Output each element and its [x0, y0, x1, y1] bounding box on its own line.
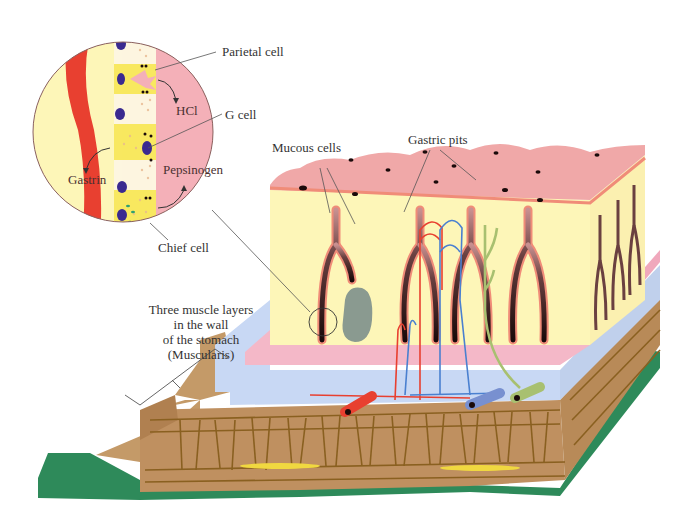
label-gastric-pits: Gastric pits — [408, 132, 468, 147]
lymph-nodule — [343, 288, 373, 343]
label-muscularis-line4: (Muscularis) — [116, 347, 286, 362]
label-parietal-cell: Parietal cell — [222, 44, 284, 59]
label-hcl: HCl — [176, 103, 198, 119]
label-muscularis: Three muscle layers in the wall of the s… — [116, 302, 286, 362]
fat-deposit — [440, 465, 520, 471]
inset-cells — [114, 38, 156, 232]
inset-magnified-gland — [33, 30, 235, 240]
label-muscularis-line2: in the wall — [116, 317, 286, 332]
label-pepsinogen: Pepsinogen — [163, 162, 223, 178]
label-chief-cell: Chief cell — [158, 240, 209, 255]
fat-deposit — [240, 463, 320, 469]
label-muscularis-line3: of the stomach — [116, 332, 286, 347]
label-mucous-cells: Mucous cells — [272, 140, 341, 155]
label-g-cell: G cell — [225, 107, 256, 122]
label-gastrin: Gastrin — [68, 172, 106, 188]
label-muscularis-line1: Three muscle layers — [116, 302, 286, 317]
stomach-wall-diagram — [0, 0, 679, 521]
